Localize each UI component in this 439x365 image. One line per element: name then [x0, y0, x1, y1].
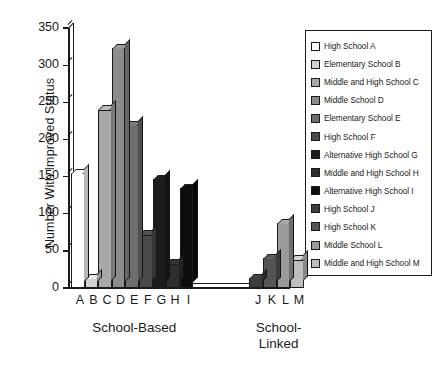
legend-item-I[interactable]: Alternative High School I	[311, 182, 431, 200]
x-tick-label-K: K	[268, 293, 276, 307]
x-tick-label-M: M	[294, 293, 304, 307]
legend-swatch-icon	[311, 42, 320, 51]
bar-side-face	[152, 225, 157, 282]
bar-B	[85, 278, 99, 288]
legend-swatch-icon	[311, 259, 320, 268]
legend-item-C[interactable]: Middle and High School C	[311, 73, 431, 91]
legend-swatch-icon	[311, 60, 320, 69]
legend-item-D[interactable]: Middle School D	[311, 91, 431, 109]
bar-side-face	[303, 250, 308, 281]
legend-item-A[interactable]: High School A	[311, 37, 431, 55]
plot-area: 350300250200150100500	[68, 28, 290, 288]
bar-chart-figure: Number With Improved Status 350300250200…	[0, 0, 439, 365]
legend-item-K[interactable]: High School K	[311, 218, 431, 236]
y-tick-label: 250	[38, 94, 59, 108]
x-tick-label-B: B	[89, 293, 97, 307]
legend-swatch-icon	[311, 78, 320, 87]
x-tick-label-I: I	[187, 293, 190, 307]
bar-side-face	[289, 214, 294, 282]
legend-label: High School K	[324, 222, 376, 232]
x-axis-tick-labels: ABCDEFGHIJKLM	[68, 293, 290, 309]
bar-A	[71, 173, 85, 288]
legend-label: Middle and High School C	[324, 77, 419, 87]
legend-swatch-icon	[311, 150, 320, 159]
x-tick-label-A: A	[76, 293, 84, 307]
legend-item-J[interactable]: High School J	[311, 200, 431, 218]
y-tick-label: 200	[38, 131, 59, 145]
bar-side-face	[111, 100, 116, 281]
legend-label: Middle and High School M	[324, 258, 420, 268]
legend-item-B[interactable]: Elementary School B	[311, 55, 431, 73]
legend-swatch-icon	[311, 204, 320, 213]
group-label-0: School-Based	[92, 320, 176, 336]
legend-swatch-icon	[311, 114, 320, 123]
y-tick-label: 350	[38, 20, 59, 34]
legend-label: Middle School D	[324, 95, 384, 105]
legend-item-F[interactable]: High School F	[311, 127, 431, 145]
y-tick-label: 300	[38, 57, 59, 71]
y-tick-label: 0	[52, 280, 59, 294]
legend-item-L[interactable]: Middle School L	[311, 236, 431, 254]
x-tick-label-J: J	[255, 293, 261, 307]
legend-label: High School J	[324, 204, 375, 214]
bar-series	[68, 28, 290, 288]
legend-swatch-icon	[311, 186, 320, 195]
legend-swatch-icon	[311, 132, 320, 141]
bar-side-face	[138, 116, 143, 282]
legend-item-G[interactable]: Alternative High School G	[311, 146, 431, 164]
legend-label: Middle School L	[324, 240, 382, 250]
legend-swatch-icon	[311, 168, 320, 177]
y-tick-label: 50	[45, 242, 59, 256]
bar-side-face	[84, 163, 89, 281]
legend-label: High School F	[324, 132, 375, 142]
bar-J	[249, 278, 263, 288]
bar-side-face	[276, 249, 281, 282]
legend-label: Alternative High School G	[324, 150, 418, 160]
bar-side-face	[165, 169, 170, 281]
y-tick-label: 100	[38, 205, 59, 219]
legend-label: Alternative High School I	[324, 186, 414, 196]
chart-legend: High School AElementary School BMiddle a…	[305, 30, 432, 276]
bar-side-face	[193, 179, 198, 282]
bar-side-face	[125, 39, 130, 282]
legend-label: Middle and High School H	[324, 168, 419, 178]
x-tick-label-D: D	[116, 293, 125, 307]
legend-label: Elementary School E	[324, 113, 401, 123]
y-tick-label: 150	[38, 168, 59, 182]
x-tick-label-G: G	[157, 293, 167, 307]
legend-swatch-icon	[311, 222, 320, 231]
x-tick-label-H: H	[170, 293, 179, 307]
legend-item-H[interactable]: Middle and High School H	[311, 164, 431, 182]
x-tick-label-C: C	[102, 293, 111, 307]
x-tick-label-L: L	[282, 293, 289, 307]
legend-label: Elementary School B	[324, 59, 401, 69]
legend-item-M[interactable]: Middle and High School M	[311, 254, 431, 272]
x-tick-label-F: F	[144, 293, 152, 307]
legend-label: High School A	[324, 41, 375, 51]
group-label-1: School- Linked	[256, 320, 302, 352]
bar-C	[98, 110, 112, 288]
legend-swatch-icon	[311, 96, 320, 105]
legend-swatch-icon	[311, 241, 320, 250]
x-tick-label-E: E	[130, 293, 138, 307]
legend-item-E[interactable]: Elementary School E	[311, 109, 431, 127]
